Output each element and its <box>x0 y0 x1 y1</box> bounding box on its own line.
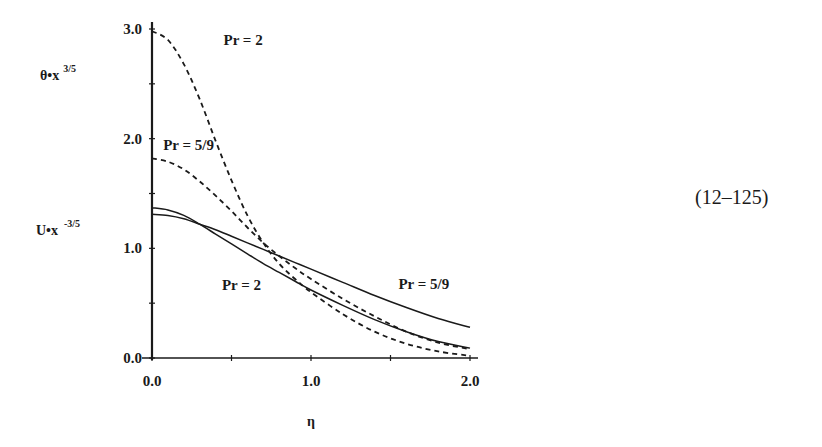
y-tick-label: 0.0 <box>123 350 142 366</box>
y-axis-title-u: U•x-3/5 <box>36 218 80 238</box>
equation-number: (12–125) <box>695 186 768 209</box>
x-axis-title: η <box>307 414 315 429</box>
y-axis-title-theta: θ•x3/5 <box>40 63 76 83</box>
curve-labels: Pr = 2Pr = 5/9Pr = 2Pr = 5/9 <box>163 32 449 293</box>
curves <box>152 31 470 356</box>
curve-u-pr-5-9 <box>152 214 470 327</box>
x-tick-label: 0.0 <box>143 373 162 389</box>
curve-label: Pr = 2 <box>222 277 261 293</box>
curve--pr-5-9 <box>152 158 470 349</box>
y-tick-label: 3.0 <box>123 21 142 37</box>
x-tick-label: 2.0 <box>461 373 480 389</box>
curve-label: Pr = 5/9 <box>398 276 449 292</box>
curve-label: Pr = 5/9 <box>163 137 214 153</box>
y-tick-label: 1.0 <box>123 240 142 256</box>
curve-label: Pr = 2 <box>224 32 263 48</box>
ticks <box>149 29 470 361</box>
curve--pr-2 <box>152 31 470 356</box>
x-tick-label: 1.0 <box>302 373 321 389</box>
axes <box>142 22 478 360</box>
tick-labels: 0.01.02.00.01.02.03.0 <box>123 21 479 389</box>
chart: 0.01.02.00.01.02.03.0 Pr = 2Pr = 5/9Pr =… <box>0 0 822 447</box>
y-tick-label: 2.0 <box>123 131 142 147</box>
